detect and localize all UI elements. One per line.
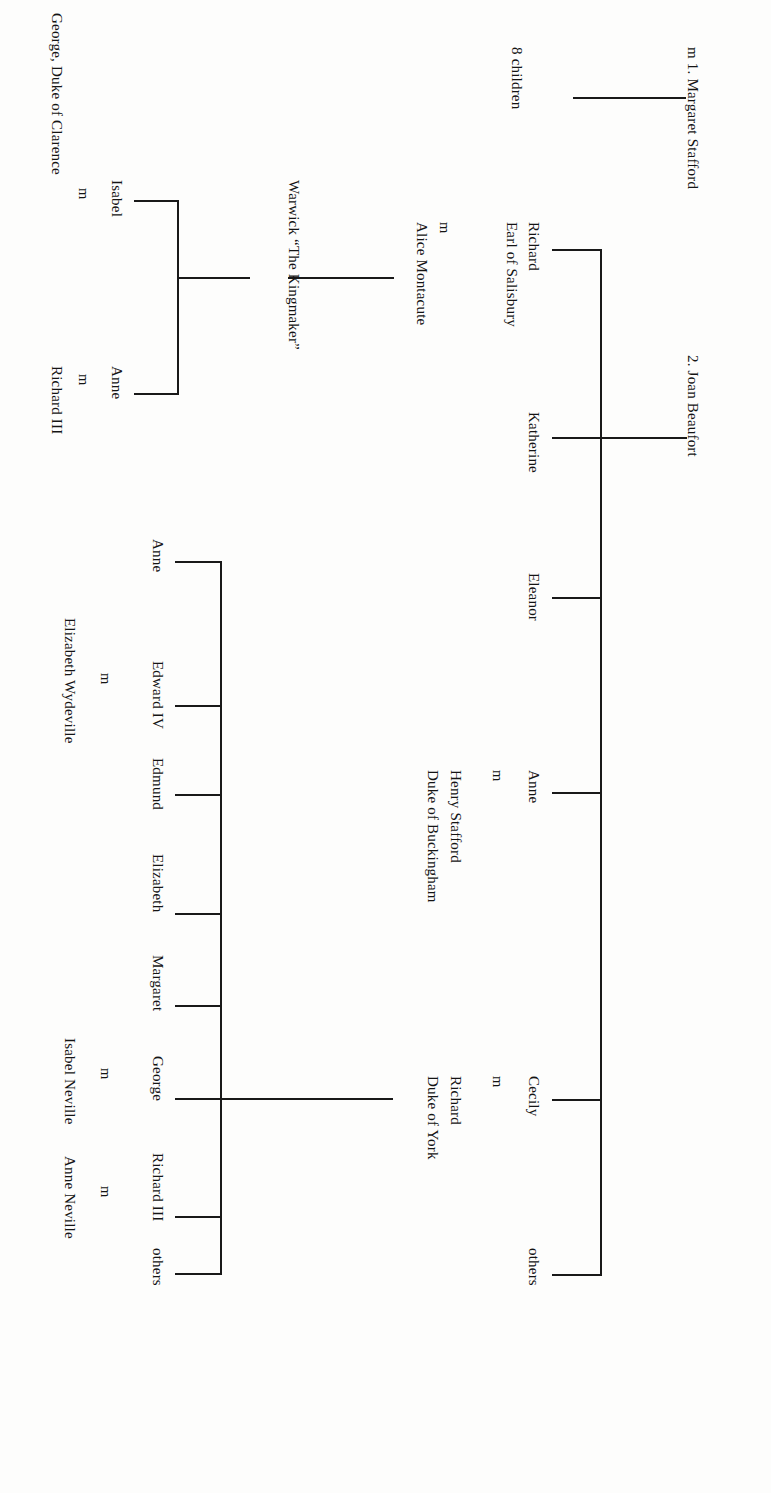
tick-isabel [134, 200, 179, 202]
anne-warwick-label: Anne [109, 366, 124, 399]
tick-anne-york [175, 561, 222, 563]
marriage-2-label: 2. Joan Beaufort [685, 355, 700, 457]
tick-richard-salisbury [552, 249, 602, 251]
connector-alice-to-warwick [288, 277, 394, 279]
alice-montacute-label: Alice Montacute [414, 222, 429, 325]
cecily-marriage-mark: m [491, 1076, 506, 1087]
tick-margaret-york [175, 1005, 222, 1007]
family-tree-canvas: m 1. Margaret Stafford 8 children 2. Joa… [0, 0, 771, 1493]
duke-of-buckingham-title: Duke of Buckingham [425, 770, 440, 903]
warwick-label: Warwick “The Kingmaker” [286, 180, 301, 350]
henry-stafford-label: Henry Stafford [448, 770, 463, 863]
richard-iii-spouse-label: Richard III [49, 366, 64, 434]
connector-york-to-children [221, 1098, 393, 1100]
tick-anne-neville-dau [552, 792, 602, 794]
tick-edward-iv [175, 705, 222, 707]
anne-stafford-marriage-mark: m [491, 770, 506, 781]
isabel-neville-label: Isabel Neville [62, 1038, 77, 1125]
margaret-york-label: Margaret [150, 955, 165, 1011]
connector-marriage2-to-spine [601, 437, 687, 439]
george-marriage-mark: m [99, 1068, 114, 1079]
elizabeth-wydeville-label: Elizabeth Wydeville [62, 618, 77, 744]
anne-label: Anne [526, 770, 541, 803]
george-clarence-label: George, Duke of Clarence [49, 13, 64, 175]
anne-york-label: Anne [150, 539, 165, 572]
elizabeth-york-label: Elizabeth [150, 854, 165, 912]
tick-others-joan [552, 1274, 602, 1276]
isabel-marriage-mark: m [77, 188, 92, 199]
tick-eleanor [552, 597, 602, 599]
anne-warwick-marriage-mark: m [77, 374, 92, 385]
tick-katherine [552, 437, 602, 439]
earl-of-salisbury-title: Earl of Salisbury [504, 222, 519, 327]
edward-iv-label: Edward IV [150, 661, 165, 729]
salisbury-marriage-mark: m [438, 222, 453, 233]
warwick-children-spine [177, 200, 179, 395]
edward-iv-marriage-mark: m [99, 673, 114, 684]
richard-iii-marriage-mark: m [99, 1186, 114, 1197]
tick-others-york [175, 1273, 222, 1275]
marriage-1-label: m 1. Margaret Stafford [685, 47, 700, 189]
isabel-label: Isabel [109, 180, 124, 217]
children-count-label: 8 children [509, 47, 524, 109]
duke-of-york-title: Duke of York [425, 1076, 440, 1160]
others-joan-label: others [526, 1248, 541, 1286]
tick-cecily [552, 1099, 602, 1101]
richard-salisbury-label: Richard [526, 222, 541, 271]
connector-warwick-to-children [178, 277, 250, 279]
eleanor-label: Eleanor [526, 573, 541, 621]
tick-richard-iii-york [175, 1216, 222, 1218]
katherine-label: Katherine [526, 412, 541, 473]
tick-george-york [175, 1098, 222, 1100]
cecily-label: Cecily [526, 1076, 541, 1116]
edmund-label: Edmund [150, 758, 165, 810]
richard-iii-york-label: Richard III [150, 1153, 165, 1221]
others-york-label: others [150, 1248, 165, 1286]
joan-children-spine [600, 249, 602, 1274]
york-children-spine [220, 561, 222, 1273]
anne-neville-label: Anne Neville [62, 1156, 77, 1239]
richard-york-label: Richard [448, 1076, 463, 1125]
tick-edmund [175, 794, 222, 796]
tick-elizabeth-york [175, 913, 222, 915]
tick-anne-warwick [134, 393, 179, 395]
george-york-label: George [150, 1056, 165, 1101]
connector-marriage1-to-children [573, 97, 686, 99]
